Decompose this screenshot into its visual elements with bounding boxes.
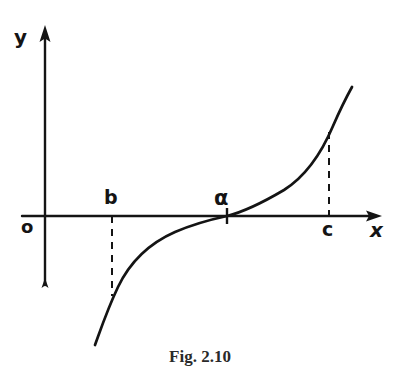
figure-caption: Fig. 2.10	[0, 348, 400, 365]
y-axis-label: y	[14, 27, 27, 47]
y-axis-tail-arrowhead	[42, 278, 49, 288]
point-label-alpha: α	[214, 188, 228, 209]
x-axis-label: x	[370, 220, 383, 240]
point-label-c: c	[322, 220, 333, 239]
point-label-b: b	[104, 188, 118, 207]
origin-label: o	[21, 218, 33, 236]
